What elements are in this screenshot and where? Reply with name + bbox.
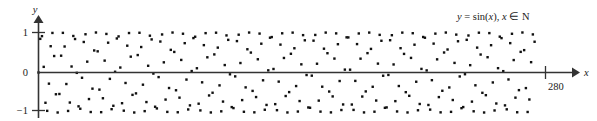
- data-point: [283, 57, 285, 59]
- data-point: [518, 89, 520, 91]
- data-point: [474, 84, 476, 86]
- formula-annotation: y = sin(x), x ∈ N: [456, 11, 530, 23]
- data-point: [168, 87, 170, 89]
- data-point: [509, 42, 511, 44]
- data-point: [406, 111, 408, 113]
- data-point: [91, 87, 93, 89]
- data-point: [213, 53, 215, 55]
- data-point: [466, 39, 468, 41]
- data-point: [507, 78, 509, 80]
- data-point: [95, 31, 97, 33]
- data-point: [363, 111, 365, 113]
- data-point: [326, 52, 328, 54]
- data-point: [478, 32, 480, 34]
- data-point: [417, 109, 419, 111]
- data-point: [272, 68, 274, 70]
- data-point: [351, 103, 353, 105]
- data-point: [244, 86, 246, 88]
- data-point: [236, 40, 238, 42]
- data-point: [150, 38, 152, 40]
- data-point: [302, 34, 304, 36]
- data-point: [378, 34, 380, 36]
- data-point: [425, 69, 427, 71]
- data-point: [429, 108, 431, 110]
- data-point: [77, 105, 79, 107]
- data-point: [126, 45, 128, 47]
- data-point: [65, 83, 67, 85]
- data-point: [224, 64, 226, 66]
- data-point: [232, 107, 234, 109]
- data-point: [497, 67, 499, 69]
- formula-sin-open: sin(: [473, 11, 489, 23]
- data-point: [490, 44, 492, 46]
- data-point: [90, 111, 92, 113]
- data-point: [325, 31, 327, 33]
- data-point: [215, 32, 217, 34]
- data-point: [304, 39, 306, 41]
- data-point: [196, 67, 198, 69]
- data-point: [342, 103, 344, 105]
- data-point: [448, 86, 450, 88]
- data-point: [166, 111, 168, 113]
- data-point: [311, 74, 313, 76]
- data-point: [377, 62, 379, 64]
- formula-sin-close: ),: [493, 11, 502, 23]
- data-point: [133, 111, 135, 113]
- data-point: [331, 95, 333, 97]
- data-point: [62, 32, 64, 34]
- data-point: [316, 63, 318, 65]
- data-point: [96, 50, 98, 52]
- data-point: [453, 62, 455, 64]
- data-point: [182, 33, 184, 35]
- data-point: [365, 90, 367, 92]
- data-point: [526, 111, 528, 113]
- data-point: [412, 32, 414, 34]
- data-point: [243, 111, 245, 113]
- data-point: [312, 39, 314, 41]
- data-point: [264, 109, 266, 111]
- data-point: [500, 37, 502, 39]
- data-point: [187, 108, 189, 110]
- data-point: [366, 52, 368, 54]
- x-tick-label-280: 280: [548, 81, 564, 92]
- data-point: [330, 111, 332, 113]
- data-point: [410, 57, 412, 59]
- data-point: [246, 48, 248, 50]
- data-point: [74, 38, 76, 40]
- data-point: [237, 34, 239, 36]
- data-point: [488, 32, 490, 34]
- data-point: [284, 95, 286, 97]
- data-point: [79, 108, 81, 110]
- data-point: [93, 49, 95, 51]
- data-point: [199, 109, 201, 111]
- data-point: [217, 46, 219, 48]
- y-axis-arrowhead: [34, 15, 44, 23]
- data-point: [457, 40, 459, 42]
- data-point: [467, 34, 469, 36]
- data-point: [143, 110, 145, 112]
- data-point: [51, 32, 53, 34]
- y-tick-label-0: 0: [23, 67, 28, 78]
- data-point: [137, 54, 139, 56]
- data-point: [356, 43, 358, 45]
- data-point: [504, 104, 506, 106]
- data-point: [450, 111, 452, 113]
- data-point: [274, 103, 276, 105]
- data-point: [177, 111, 179, 113]
- data-point: [60, 55, 62, 57]
- data-point: [248, 31, 250, 33]
- data-point: [476, 46, 478, 48]
- data-point: [446, 48, 448, 50]
- data-point: [401, 31, 403, 33]
- data-point: [481, 92, 483, 94]
- data-point: [443, 51, 445, 53]
- data-point: [297, 110, 299, 112]
- data-point: [119, 66, 121, 68]
- data-point: [439, 111, 441, 113]
- data-point: [156, 107, 158, 109]
- data-point: [305, 74, 307, 76]
- data-point: [459, 75, 461, 77]
- data-point: [513, 59, 515, 61]
- data-point: [184, 42, 186, 44]
- data-point: [380, 40, 382, 42]
